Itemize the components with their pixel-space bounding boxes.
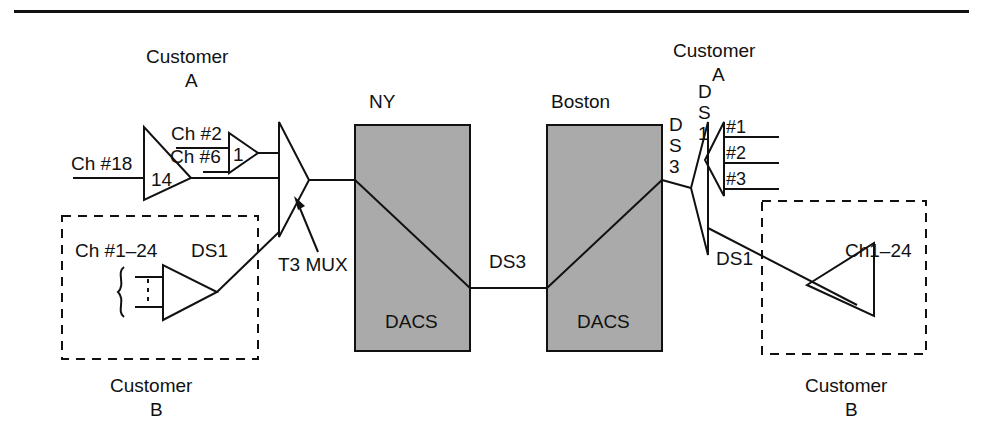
ny-site-label: NY <box>369 91 396 112</box>
ch1-24-right-label: Ch1–24 <box>845 240 912 261</box>
ch2-label: Ch #2 <box>171 123 222 144</box>
ds3-link-label: DS3 <box>489 251 526 272</box>
dacs-ny-label: DACS <box>385 311 438 332</box>
ch18-label: Ch #18 <box>71 153 132 174</box>
customer-a-right-label-line2: A <box>712 64 725 85</box>
customer-a-left-label-line1: Customer <box>146 46 229 67</box>
network-diagram: Customer A Ch #18 14 Ch #2 Ch #6 1 T3 MU… <box>0 0 983 438</box>
channel-brace-left <box>118 267 124 317</box>
customer-b-left-label-line2: B <box>150 399 163 420</box>
customer-b-right-dashed-box <box>762 201 926 354</box>
ds1-right-label-1: 1 <box>698 123 709 144</box>
figure-root: Customer A Ch #18 14 Ch #2 Ch #6 1 T3 MU… <box>0 0 983 438</box>
mux-14-label: 14 <box>151 169 173 190</box>
customer-a-left-label-line2: A <box>185 70 198 91</box>
ds1-right-label-d: D <box>698 81 712 102</box>
ds3-right-label-3: 3 <box>669 156 680 177</box>
boston-site-label: Boston <box>551 91 610 112</box>
ds1-left-label: DS1 <box>191 240 228 261</box>
ch6-label: Ch #6 <box>170 146 221 167</box>
out1-label: #1 <box>726 117 746 137</box>
out2-label: #2 <box>726 143 746 163</box>
customer-b-right-label-line2: B <box>845 399 858 420</box>
dacs-boston-label: DACS <box>577 311 630 332</box>
cust-b-left-mux-triangle <box>163 265 217 320</box>
ds1-right-label-s: S <box>698 102 711 123</box>
customer-a-right-label-line1: Customer <box>673 40 756 61</box>
boston-to-demux-wire <box>662 180 691 188</box>
ch-1-24-left-label: Ch #1–24 <box>75 240 158 261</box>
ds1-right-box-label: DS1 <box>716 248 753 269</box>
customer-b-left-dashed-box <box>62 216 258 359</box>
t3-mux-callout-line <box>299 206 318 252</box>
out3-label: #3 <box>726 169 746 189</box>
ds3-right-label-s: S <box>669 135 682 156</box>
customer-b-right-label-line1: Customer <box>805 375 888 396</box>
mux-1-label: 1 <box>233 144 244 165</box>
customer-b-left-label-line1: Customer <box>110 375 193 396</box>
t3-mux-label: T3 MUX <box>278 254 348 275</box>
ds3-right-label-d: D <box>669 114 683 135</box>
